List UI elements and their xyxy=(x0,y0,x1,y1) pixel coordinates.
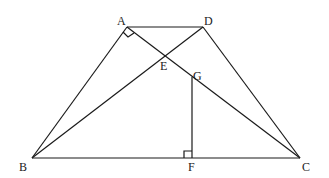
right-angle-mark-F xyxy=(184,151,192,158)
label-B: B xyxy=(19,160,27,174)
segment-AB xyxy=(32,27,127,158)
right-angle-mark-A xyxy=(123,32,134,37)
label-E: E xyxy=(160,59,167,73)
segment-DC xyxy=(203,27,300,158)
label-C: C xyxy=(302,160,310,174)
label-A: A xyxy=(117,14,126,28)
label-G: G xyxy=(193,69,202,83)
label-F: F xyxy=(188,160,195,174)
label-D: D xyxy=(204,14,213,28)
geometry-diagram: A D E G B F C xyxy=(0,0,329,178)
segment-BD xyxy=(32,27,203,158)
segment-AC xyxy=(127,27,300,158)
